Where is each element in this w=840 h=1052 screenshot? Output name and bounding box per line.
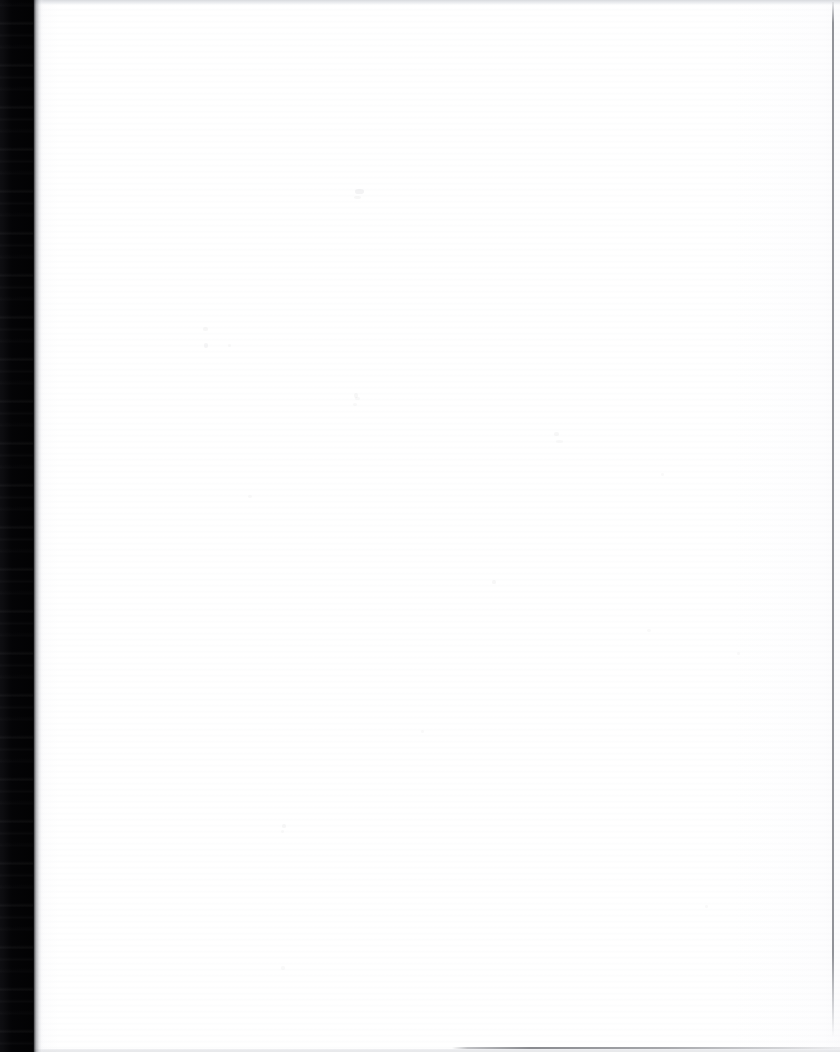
page-body-text [90,90,790,970]
scanner-bed-noise [0,0,34,1052]
scanned-page [0,0,840,1052]
scanner-bed-shadow [0,0,34,1052]
